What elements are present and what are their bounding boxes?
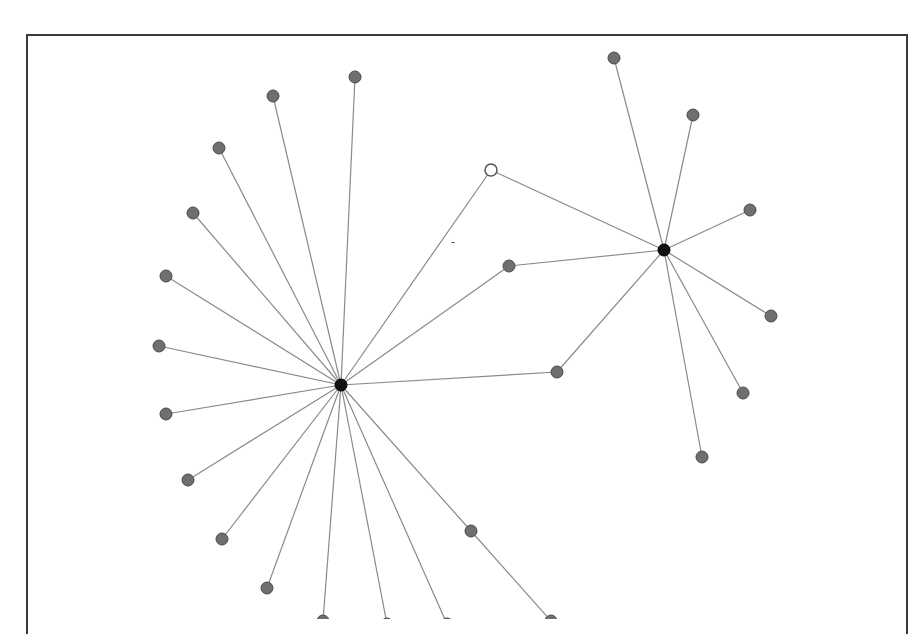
edge-hub1-a14 xyxy=(341,385,471,531)
edge-hub2-b1 xyxy=(509,250,664,266)
edge-hub1-a9 xyxy=(222,385,341,539)
edge-a14-a15 xyxy=(471,531,551,619)
leaf-node-a14 xyxy=(465,525,477,537)
leaf-node-a12 xyxy=(381,618,393,619)
leaf-node-a9 xyxy=(216,533,228,545)
edge-hub2-c5 xyxy=(664,250,743,393)
leaf-node-c2 xyxy=(687,109,699,121)
leaf-node-b2 xyxy=(551,366,563,378)
edge-hub1-a11 xyxy=(323,385,341,619)
edge-hub1-b2 xyxy=(341,372,557,385)
edge-hub2-b2 xyxy=(557,250,664,372)
edge-hub1-a3 xyxy=(219,148,341,385)
open-node-open1 xyxy=(485,164,497,176)
leaf-node-c1 xyxy=(608,52,620,64)
annotation-mark: - xyxy=(451,235,455,249)
edge-hub1-a6 xyxy=(159,346,341,385)
leaf-node-a4 xyxy=(187,207,199,219)
edge-hub1-a8 xyxy=(188,385,341,480)
edge-hub2-c1 xyxy=(614,58,664,250)
leaf-node-a1 xyxy=(349,71,361,83)
edge-hub2-c6 xyxy=(664,250,702,457)
edge-hub1-a13 xyxy=(341,385,447,619)
leaf-node-c5 xyxy=(737,387,749,399)
leaf-node-c3 xyxy=(744,204,756,216)
leaf-node-a13 xyxy=(441,618,453,619)
edge-hub1-a5 xyxy=(166,276,341,385)
edge-layer xyxy=(159,58,771,619)
leaf-node-a11 xyxy=(317,615,329,619)
edge-hub2-c4 xyxy=(664,250,771,316)
leaf-node-a7 xyxy=(160,408,172,420)
edge-hub2-open1 xyxy=(491,170,664,250)
leaf-node-b1 xyxy=(503,260,515,272)
edge-hub1-a1 xyxy=(341,77,355,385)
leaf-node-c6 xyxy=(696,451,708,463)
edge-hub1-open1 xyxy=(341,170,491,385)
leaf-node-a6 xyxy=(153,340,165,352)
edge-hub2-c3 xyxy=(664,210,750,250)
leaf-node-a8 xyxy=(182,474,194,486)
hub-node-hub1 xyxy=(335,379,347,391)
edge-hub1-b1 xyxy=(341,266,509,385)
edge-hub1-a10 xyxy=(267,385,341,588)
edge-hub1-a4 xyxy=(193,213,341,385)
leaf-node-a5 xyxy=(160,270,172,282)
hub-node-hub2 xyxy=(658,244,670,256)
edge-hub1-a12 xyxy=(341,385,387,619)
leaf-node-a10 xyxy=(261,582,273,594)
leaf-node-a2 xyxy=(267,90,279,102)
edge-hub2-c2 xyxy=(664,115,693,250)
annotation-layer: - xyxy=(451,235,455,249)
edge-hub1-a7 xyxy=(166,385,341,414)
edge-hub1-a2 xyxy=(273,96,341,385)
leaf-node-a3 xyxy=(213,142,225,154)
node-layer xyxy=(153,52,777,619)
leaf-node-c4 xyxy=(765,310,777,322)
